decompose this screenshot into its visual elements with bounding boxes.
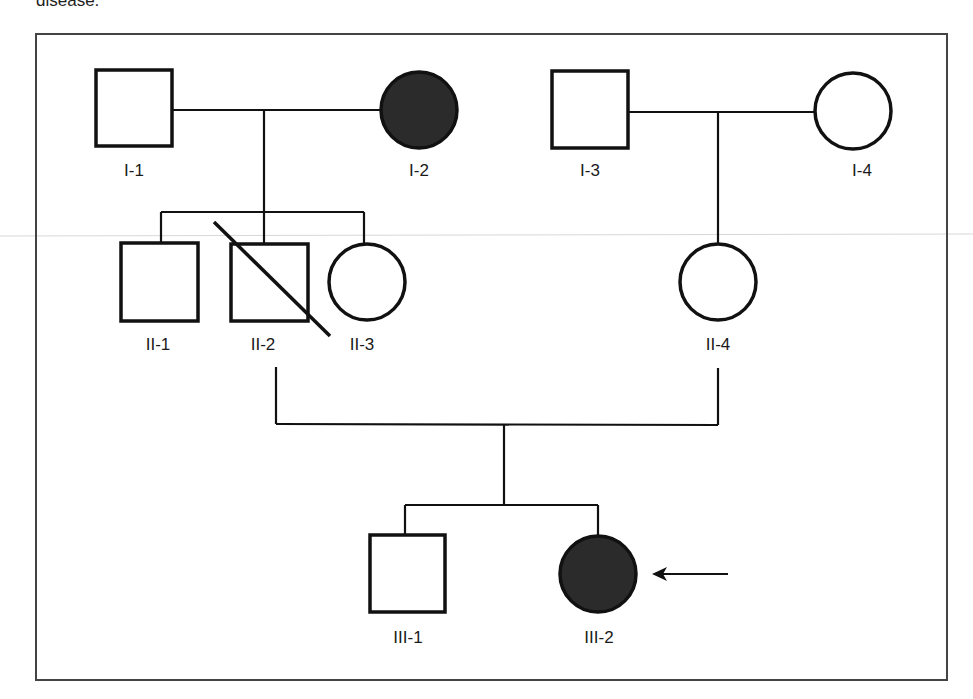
pedigree-chart: I-1 I-2 I-3 I-4 II-1 II-2 II-3 II-4 III-…	[0, 0, 973, 699]
label-II-3: II-3	[350, 335, 375, 354]
label-II-4: II-4	[706, 335, 731, 354]
label-I-3: I-3	[580, 161, 600, 180]
individual-II-1	[121, 243, 198, 321]
label-I-2: I-2	[409, 161, 429, 180]
individual-III-2	[560, 536, 636, 612]
label-II-2: II-2	[251, 335, 276, 354]
individual-III-1	[370, 535, 445, 612]
label-III-2: III-2	[584, 628, 613, 647]
mating-line-II2-II4	[276, 424, 718, 425]
label-I-4: I-4	[852, 161, 872, 180]
individual-II-3	[329, 244, 405, 320]
individual-II-4	[680, 244, 756, 320]
individual-I-4	[815, 73, 891, 149]
individual-I-1	[96, 70, 172, 146]
label-I-1: I-1	[124, 161, 144, 180]
label-II-1: II-1	[146, 335, 171, 354]
individual-II-2	[231, 244, 308, 321]
label-III-1: III-1	[393, 628, 422, 647]
scan-artifact-line	[0, 234, 973, 236]
individual-I-2	[381, 72, 457, 148]
individual-I-3	[552, 71, 628, 148]
